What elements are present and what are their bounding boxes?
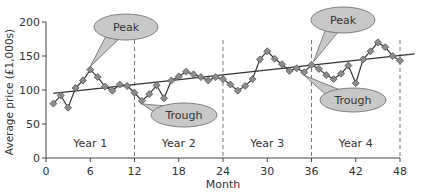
data-point-marker [168, 77, 175, 84]
data-point-marker [205, 77, 212, 84]
data-point-marker [352, 80, 359, 87]
callout-label: Trough [333, 94, 371, 107]
data-point-marker [161, 95, 168, 102]
y-tick-label: 100 [19, 84, 40, 97]
x-tick-label: 36 [305, 165, 319, 178]
data-point-marker [190, 71, 197, 78]
period-label: Year 1 [72, 137, 107, 150]
data-point-marker [197, 74, 204, 81]
line-chart: 0501001502000612182430364248 Year 1Year … [0, 0, 437, 193]
data-point-marker [65, 104, 72, 111]
x-axis-label: Month [206, 178, 241, 191]
callouts: PeakTroughPeakTrough [90, 7, 386, 127]
x-tick-label: 48 [393, 165, 407, 178]
y-tick-label: 0 [33, 152, 40, 165]
callout-label: Peak [113, 21, 140, 34]
x-tick-label: 12 [128, 165, 142, 178]
period-label: Year 3 [249, 137, 284, 150]
x-tick-label: 24 [216, 165, 230, 178]
callout-label: Peak [330, 14, 357, 27]
chart-svg: 0501001502000612182430364248 Year 1Year … [0, 0, 437, 193]
period-label: Year 2 [161, 137, 196, 150]
data-point-marker [183, 68, 190, 75]
y-axis-label: Average price (£1,000s) [3, 29, 15, 155]
x-tick-label: 42 [349, 165, 363, 178]
y-tick-label: 50 [26, 118, 40, 131]
y-tick-label: 200 [19, 16, 40, 29]
data-point-marker [397, 57, 404, 64]
x-tick-label: 18 [172, 165, 186, 178]
y-tick-label: 150 [19, 50, 40, 63]
data-point-marker [212, 74, 219, 81]
x-tick-label: 6 [87, 165, 94, 178]
data-point-marker [293, 65, 300, 72]
x-tick-label: 30 [260, 165, 274, 178]
x-tick-label: 0 [43, 165, 50, 178]
period-label: Year 4 [338, 137, 373, 150]
callout-label: Trough [164, 109, 202, 122]
